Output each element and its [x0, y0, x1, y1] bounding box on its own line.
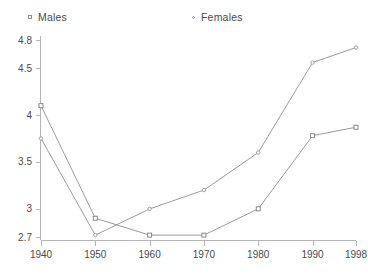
x-tick-label: 1950 [84, 249, 107, 260]
series-females [39, 46, 357, 237]
x-tick-label: 1980 [247, 249, 270, 260]
x-tick-label: 1970 [193, 249, 216, 260]
x-tick-label: 1998 [345, 249, 368, 260]
data-point-marker [39, 104, 43, 108]
data-point-marker [257, 151, 260, 154]
data-point-marker [94, 233, 97, 236]
data-point-marker [202, 233, 206, 237]
x-axis: 1940195019601970198019901998 [30, 241, 368, 261]
data-point-marker [354, 125, 358, 129]
x-tick-group: 1940195019601970198019901998 [30, 241, 368, 260]
data-point-marker [148, 207, 151, 210]
x-tick-label: 1960 [138, 249, 161, 260]
y-tick-label: 2.7 [18, 232, 32, 243]
x-tick-label: 1940 [30, 249, 53, 260]
y-tick-group: 2.733.544.54.8 [18, 35, 41, 243]
y-axis: 2.733.544.54.8 [18, 35, 41, 243]
series-line-males [41, 106, 356, 235]
data-point-marker [148, 233, 152, 237]
y-tick-label: 4.5 [18, 63, 32, 74]
y-tick-label: 3 [26, 203, 32, 214]
line-chart: Males Females 2.733.544.54.8 19401950196… [0, 0, 368, 275]
data-point-marker [202, 188, 205, 191]
data-point-marker [311, 134, 315, 138]
data-point-marker [93, 216, 97, 220]
x-tick-label: 1990 [301, 249, 324, 260]
data-point-marker [311, 61, 314, 64]
series-males [39, 104, 358, 237]
data-point-marker [354, 46, 357, 49]
chart-canvas: 2.733.544.54.8 1940195019601970198019901… [0, 0, 368, 275]
y-tick-label: 4.8 [18, 35, 32, 46]
data-point-marker [256, 207, 260, 211]
y-tick-label: 4 [26, 110, 32, 121]
data-point-marker [39, 137, 42, 140]
series-group [39, 46, 358, 237]
y-tick-label: 3.5 [18, 156, 32, 167]
